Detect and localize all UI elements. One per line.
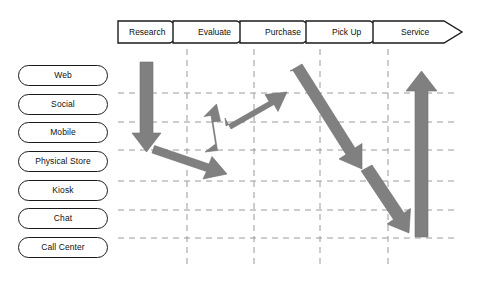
flow-arrow-research-web-to-physical-store bbox=[132, 62, 161, 152]
stage-service[interactable]: Service bbox=[388, 17, 462, 47]
channel-pill-social[interactable]: Social bbox=[18, 94, 108, 115]
channel-pill-web[interactable]: Web bbox=[18, 65, 108, 86]
stage-research[interactable]: Research bbox=[118, 17, 188, 47]
channel-label-call-center: Call Center bbox=[41, 243, 85, 252]
channel-label-web: Web bbox=[54, 71, 72, 80]
flow-arrow-service-up-tall bbox=[406, 71, 437, 237]
stage-pickup[interactable]: Pick Up bbox=[320, 17, 388, 47]
channel-pill-kiosk[interactable]: Kiosk bbox=[18, 180, 108, 201]
journey-diagram: Web Social Mobile Physical Store Kiosk C… bbox=[0, 0, 480, 289]
flow-arrow-purchase-to-pickup-down bbox=[290, 64, 362, 169]
flow-arrow-evaluate-to-purchase-up bbox=[225, 92, 287, 129]
stage-label-purchase: Purchase bbox=[265, 28, 301, 37]
channel-label-kiosk: Kiosk bbox=[52, 186, 73, 195]
stage-label-pickup: Pick Up bbox=[332, 28, 361, 37]
channel-pill-chat[interactable]: Chat bbox=[18, 208, 108, 229]
channel-label-physical-store: Physical Store bbox=[35, 157, 91, 166]
channel-pill-physical-store[interactable]: Physical Store bbox=[18, 151, 108, 172]
channel-label-mobile: Mobile bbox=[50, 128, 76, 137]
channel-pill-mobile[interactable]: Mobile bbox=[18, 122, 108, 143]
stage-evaluate[interactable]: Evaluate bbox=[187, 17, 255, 47]
channel-label-social: Social bbox=[51, 100, 75, 109]
stage-label-service: Service bbox=[401, 28, 429, 37]
flow-arrow-evaluate-up-short bbox=[204, 104, 221, 152]
flow-arrow-pickup-to-service-down bbox=[361, 165, 411, 233]
stage-label-evaluate: Evaluate bbox=[198, 28, 231, 37]
channel-pill-call-center[interactable]: Call Center bbox=[18, 237, 108, 258]
channel-label-chat: Chat bbox=[54, 214, 72, 223]
stage-purchase[interactable]: Purchase bbox=[254, 17, 321, 47]
stage-label-research: Research bbox=[129, 28, 165, 37]
